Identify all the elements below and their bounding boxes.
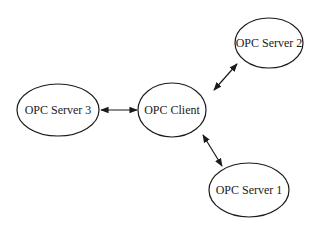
opc-diagram: OPC Client OPC Server 1 OPC Server 2 OPC…: [0, 0, 320, 227]
node-label: OPC Client: [144, 103, 200, 117]
node-opc-server-1: OPC Server 1: [209, 163, 289, 217]
node-opc-client: OPC Client: [138, 83, 206, 137]
node-opc-server-3: OPC Server 3: [17, 84, 99, 136]
node-opc-server-2: OPC Server 2: [235, 18, 303, 68]
edge-client-server2: [214, 64, 237, 90]
node-label: OPC Server 2: [236, 36, 303, 50]
node-label: OPC Server 1: [216, 183, 283, 197]
edge-client-server1: [203, 135, 222, 166]
node-label: OPC Server 3: [25, 103, 92, 117]
